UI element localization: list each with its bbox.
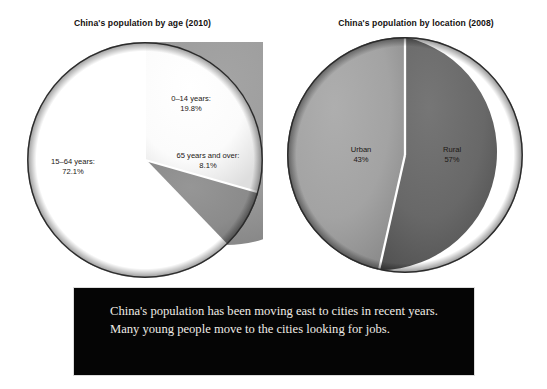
pie-age-svg xyxy=(27,42,263,278)
pie-location-svg xyxy=(287,37,523,273)
pie-chart-location xyxy=(287,37,523,273)
caption-text: China's population has been moving east … xyxy=(110,303,452,338)
figure-root: China's population by age (2010) xyxy=(0,0,547,389)
chart-title-location: China's population by location (2008) xyxy=(285,18,547,28)
chart-population-by-age: China's population by age (2010) xyxy=(0,0,285,285)
pie-chart-age xyxy=(27,42,263,278)
chart-title-age: China's population by age (2010) xyxy=(0,18,285,28)
caption-box: China's population has been moving east … xyxy=(74,288,474,375)
chart-population-by-location: China's population by location (2008) xyxy=(285,0,547,285)
